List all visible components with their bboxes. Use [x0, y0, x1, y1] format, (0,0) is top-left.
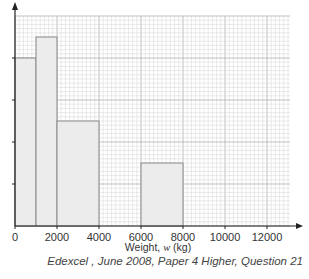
histogram-bar — [141, 163, 183, 226]
histogram-bar — [36, 37, 57, 226]
histogram-bar — [15, 58, 36, 226]
histogram-bar — [57, 121, 99, 226]
x-tick-label: 10000 — [210, 231, 241, 243]
x-tick-label: 12000 — [252, 231, 283, 243]
x-tick-label: 0 — [12, 231, 18, 243]
x-axis-label: Weight, w (kg) — [125, 241, 191, 253]
x-tick-label: 2000 — [45, 231, 69, 243]
histogram-chart: 020004000600080001000012000 Weight, w (k… — [0, 0, 309, 279]
source-caption: Edexcel , June 2008, Paper 4 Higher, Que… — [47, 255, 303, 267]
x-tick-label: 4000 — [87, 231, 111, 243]
